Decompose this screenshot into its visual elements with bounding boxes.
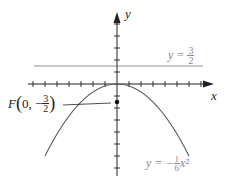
directrix-fraction: 3 2 bbox=[187, 46, 194, 65]
focus-point bbox=[115, 100, 120, 105]
parabola-label: y = − 1 6 x² bbox=[146, 155, 189, 172]
y-axis-label: y bbox=[125, 6, 131, 22]
parabola-denominator: 6 bbox=[175, 164, 180, 172]
focus-denominator: 2 bbox=[43, 104, 48, 113]
parabola-label-suffix: x² bbox=[180, 156, 189, 171]
parabola-label-prefix: y = − bbox=[146, 156, 174, 171]
focus-label: F ( 0, − 3 2 ) bbox=[8, 93, 55, 114]
focus-label-letter: F bbox=[8, 96, 16, 112]
x-axis-arrow-icon bbox=[203, 81, 214, 88]
focus-fraction: 3 2 bbox=[42, 94, 49, 113]
directrix-denominator: 2 bbox=[188, 56, 193, 65]
focus-leader-line bbox=[63, 103, 111, 105]
y-axis-arrow-icon bbox=[114, 12, 121, 23]
focus-paren-close: ) bbox=[49, 93, 55, 114]
focus-coords: 0, − bbox=[22, 96, 42, 112]
directrix-label-prefix: y = bbox=[168, 48, 187, 63]
directrix-label: y = 3 2 bbox=[168, 46, 194, 65]
x-axis-label: x bbox=[211, 88, 217, 104]
